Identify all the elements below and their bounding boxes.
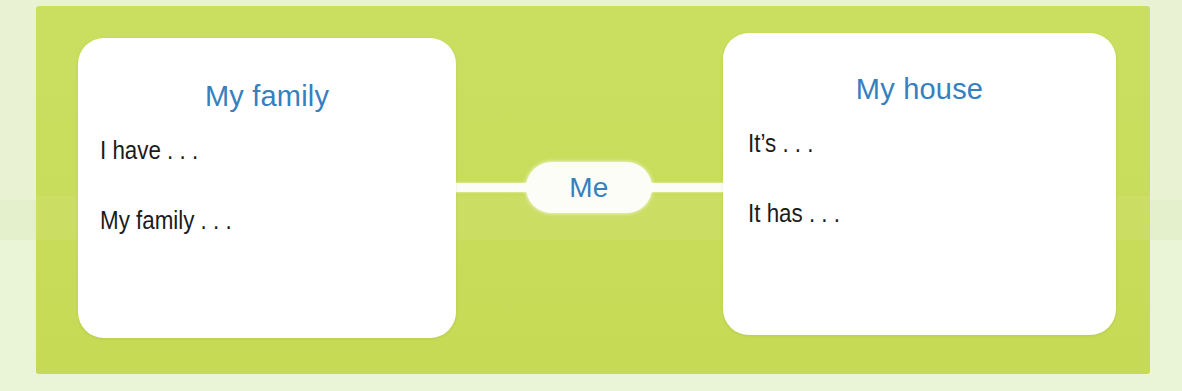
- branch-line-item: It has . . .: [748, 200, 1064, 226]
- branch-lines-my-family: I have . . . My family . . .: [78, 137, 456, 233]
- center-node-me[interactable]: Me: [526, 162, 652, 213]
- branch-lines-my-house: It’s . . . It has . . .: [723, 130, 1116, 226]
- branch-line-item: My family . . .: [100, 207, 406, 233]
- center-node-label: Me: [569, 174, 609, 202]
- branch-line-item: I have . . .: [100, 137, 406, 163]
- connector-line-right: [640, 183, 732, 192]
- mind-map-canvas: My family I have . . . My family . . . M…: [0, 0, 1182, 391]
- branch-box-my-family[interactable]: My family I have . . . My family . . .: [78, 38, 456, 338]
- branch-title-my-house: My house: [723, 75, 1116, 104]
- branch-line-item: It’s . . .: [748, 130, 1064, 156]
- branch-box-my-house[interactable]: My house It’s . . . It has . . .: [723, 33, 1116, 335]
- branch-title-my-family: My family: [78, 82, 456, 111]
